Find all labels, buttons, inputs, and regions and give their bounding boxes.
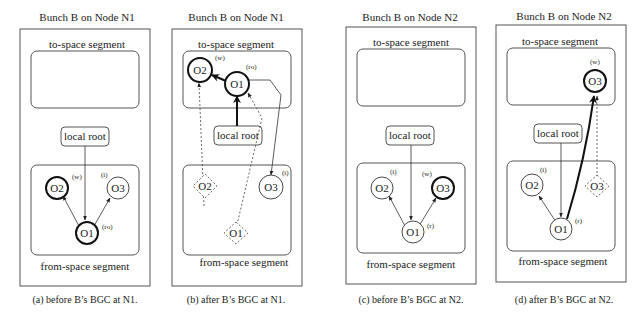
- from-space-label: from-space segment: [367, 258, 456, 270]
- from-space-label: from-space segment: [519, 255, 608, 267]
- panel-d: Bunch B on Node N2 to-space segment loca…: [496, 10, 626, 306]
- from-space-label: from-space segment: [41, 260, 130, 272]
- caption: (c) before B’s BGC at N2.: [359, 294, 464, 306]
- to-space-label: to-space segment: [49, 38, 125, 50]
- from-space-label: from-space segment: [200, 256, 289, 268]
- edge-o1-to-o2: [389, 196, 405, 226]
- edge-o1-to-o2: [212, 75, 226, 81]
- caption: (d) after B’s BGC at N2.: [515, 294, 613, 306]
- ghost-o3-label: O3: [590, 180, 604, 192]
- node-o2-label: O2: [193, 64, 206, 76]
- node-o1-label: O1: [230, 78, 243, 90]
- node-o1-tag: (ro): [102, 223, 113, 231]
- edge-o1-to-o3: [567, 96, 594, 219]
- node-o1-label: O1: [554, 223, 567, 235]
- panel-title: Bunch B on Node N1: [188, 11, 283, 23]
- local-root-label: local root: [389, 129, 431, 141]
- edge-o1-to-o3: [94, 198, 110, 226]
- to-space-segment: [31, 51, 139, 108]
- edge-o1-to-o2: [63, 196, 79, 226]
- caption: (b) after B’s BGC at N1.: [187, 294, 285, 306]
- node-o2-tag: (w): [72, 173, 82, 181]
- to-space-label: to-space segment: [522, 35, 598, 47]
- node-o1-tag: (ro): [246, 63, 257, 71]
- panel-c: Bunch B on Node N2 to-space segment loca…: [346, 11, 476, 306]
- edge-o1-to-o2: [539, 196, 556, 222]
- local-root-label: local root: [537, 127, 579, 139]
- to-space-segment: [357, 49, 465, 106]
- node-o3-tag: (i): [282, 169, 289, 177]
- node-o2-label: O2: [375, 182, 388, 194]
- local-root-label: local root: [217, 129, 259, 141]
- bgc-diagram: Bunch B on Node N1 to-space segment loca…: [0, 0, 637, 314]
- node-o2-tag: (w): [215, 54, 225, 62]
- node-o2-label: O2: [50, 182, 63, 194]
- panel-title: Bunch B on Node N2: [362, 11, 457, 23]
- panel-title: Bunch B on Node N1: [39, 11, 134, 23]
- node-o3-label: O3: [264, 181, 278, 193]
- node-o1-tag: (r): [427, 222, 435, 230]
- ghost-o2-label: O2: [198, 180, 211, 192]
- node-o1-tag: (r): [575, 217, 583, 225]
- node-o3-label: O3: [111, 182, 125, 194]
- node-o3-tag: (w): [422, 170, 432, 178]
- caption: (a) before B’s BGC at N1.: [33, 294, 138, 306]
- node-o1-label: O1: [406, 226, 419, 238]
- edge-o1-to-o3: [248, 80, 281, 175]
- panel-a: Bunch B on Node N1 to-space segment loca…: [20, 11, 150, 306]
- to-space-label: to-space segment: [198, 38, 274, 50]
- panel-title: Bunch B on Node N2: [516, 10, 611, 22]
- node-o3-label: O3: [588, 75, 602, 87]
- node-o2-tag: (i): [540, 166, 547, 174]
- node-o1-label: O1: [80, 227, 93, 239]
- node-o3-label: O3: [436, 182, 450, 194]
- node-o2-tag: (i): [390, 168, 397, 176]
- forward-o1-ghost: [236, 93, 262, 229]
- panel-b: Bunch B on Node N1 to-space segment loca…: [172, 11, 302, 306]
- node-o3-tag: (i): [101, 171, 108, 179]
- local-root-label: local root: [64, 130, 106, 142]
- ghost-o1-label: O1: [229, 227, 242, 239]
- node-o2-label: O2: [525, 179, 538, 191]
- to-space-label: to-space segment: [373, 36, 449, 48]
- node-o3-tag: (w): [590, 58, 600, 66]
